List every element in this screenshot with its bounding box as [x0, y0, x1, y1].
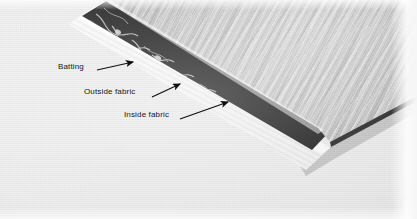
photo-right-edge [391, 0, 417, 219]
inside-fabric-label: Inside fabric [124, 111, 169, 119]
photo-figure: Batting Outside fabric Inside fabric [0, 0, 417, 219]
photo-top-edge [0, 0, 417, 10]
photo-bottom-edge [0, 207, 417, 219]
photo-vignette [0, 0, 417, 219]
batting-label: Batting [58, 63, 84, 71]
outside-fabric-label: Outside fabric [84, 88, 135, 96]
